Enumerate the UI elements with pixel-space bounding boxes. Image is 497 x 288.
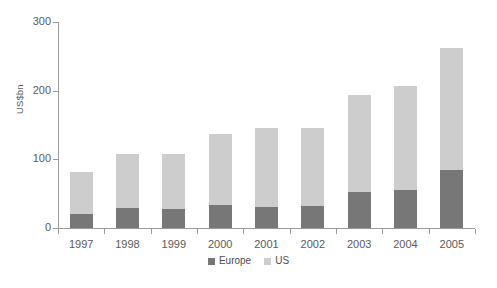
chart-legend: EuropeUS: [0, 256, 497, 266]
bar-stack-2002: [301, 128, 324, 228]
x-axis-tick-mark: [104, 229, 105, 234]
bar-stack-1998: [116, 154, 139, 228]
legend-swatch-us: [264, 258, 271, 265]
y-axis-line: [58, 22, 59, 229]
y-axis-tick-label-text: 0: [9, 222, 51, 233]
bar-segment-us: [440, 48, 463, 170]
y-axis-tick-mark: [53, 22, 58, 23]
x-axis-tick-mark: [290, 229, 291, 234]
bar-stack-2000: [209, 134, 232, 228]
bar-segment-europe: [116, 208, 139, 228]
stacked-bar-chart: US$bn 0100200300 19971998199920002001200…: [0, 0, 497, 288]
x-axis-tick-mark: [197, 229, 198, 234]
y-axis-tick-mark: [53, 159, 58, 160]
x-axis-tick-label-2005: 2005: [424, 238, 480, 250]
legend-item-europe: Europe: [208, 256, 251, 266]
bar-segment-europe: [440, 170, 463, 228]
bar-segment-europe: [70, 214, 93, 228]
legend-item-us: US: [264, 256, 289, 266]
bar-segment-us: [255, 128, 278, 208]
bar-stack-2004: [394, 86, 417, 228]
bar-segment-europe: [301, 206, 324, 228]
bar-segment-europe: [162, 209, 185, 228]
x-axis-tick-mark: [429, 229, 430, 234]
bar-segment-europe: [255, 207, 278, 228]
y-axis-tick-label: 200: [0, 85, 51, 96]
bar-segment-europe: [348, 192, 371, 228]
bar-segment-us: [162, 154, 185, 209]
x-axis-line: [58, 228, 475, 229]
y-axis-tick-label: 300: [0, 16, 51, 27]
bar-segment-us: [301, 128, 324, 206]
bar-stack-1997: [70, 172, 93, 228]
x-axis-tick-mark: [58, 229, 59, 234]
bar-stack-1999: [162, 154, 185, 228]
bar-segment-us: [348, 95, 371, 192]
bar-stack-2005: [440, 48, 463, 228]
bar-segment-us: [116, 154, 139, 208]
y-axis-tick-label-text: 200: [9, 85, 51, 96]
legend-label-us: US: [275, 256, 289, 266]
x-axis-tick-mark: [151, 229, 152, 234]
bar-segment-us: [209, 134, 232, 205]
y-axis-tick-label-text: 300: [9, 16, 51, 27]
y-axis-tick-label: 100: [0, 153, 51, 164]
bar-stack-2003: [348, 95, 371, 228]
bar-segment-us: [70, 172, 93, 214]
x-axis-tick-mark: [475, 229, 476, 234]
x-axis-tick-mark: [382, 229, 383, 234]
bar-segment-us: [394, 86, 417, 190]
bar-segment-europe: [209, 205, 232, 228]
legend-swatch-europe: [208, 258, 215, 265]
bar-stack-2001: [255, 128, 278, 228]
legend-label-europe: Europe: [219, 256, 251, 266]
y-axis-tick-label: 0: [0, 222, 51, 233]
bar-segment-europe: [394, 190, 417, 228]
y-axis-tick-label-text: 100: [9, 153, 51, 164]
x-axis-tick-mark: [336, 229, 337, 234]
x-axis-tick-mark: [243, 229, 244, 234]
y-axis-tick-mark: [53, 91, 58, 92]
